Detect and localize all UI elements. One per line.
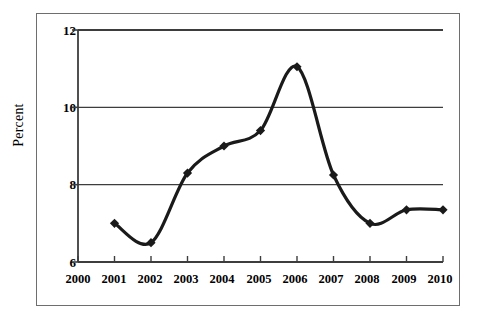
chart-figure: Percent 12 10 8 6 2000 2001 2002 2003 20… [0,0,477,323]
plot-area [0,0,477,323]
data-point-marker [402,205,411,214]
tick-marks [72,30,443,262]
data-line-series-percent [115,66,444,244]
gridlines [78,30,443,262]
data-point-marker [438,205,447,214]
axis-lines [78,30,443,262]
